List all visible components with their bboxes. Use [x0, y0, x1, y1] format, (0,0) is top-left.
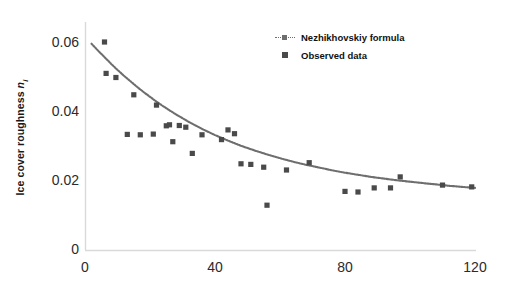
data-point	[190, 151, 195, 156]
data-point	[225, 127, 230, 132]
data-point	[469, 184, 474, 189]
data-point	[131, 92, 136, 97]
legend: Nezhikhovskiy formula Observed data	[272, 28, 404, 64]
data-point	[284, 167, 289, 172]
data-point	[398, 174, 403, 179]
data-point	[372, 185, 377, 190]
data-point	[104, 71, 109, 76]
square-marker-icon	[272, 52, 298, 58]
data-point	[440, 183, 445, 188]
legend-label: Nezhikhovskiy formula	[301, 32, 404, 43]
data-point	[177, 123, 182, 128]
data-point	[138, 132, 143, 137]
data-point	[183, 125, 188, 130]
data-point	[170, 139, 175, 144]
data-point	[125, 132, 130, 137]
data-point	[113, 75, 118, 80]
nezhikhovskiy-formula-curve	[92, 44, 476, 188]
data-point	[264, 203, 269, 208]
data-point	[199, 132, 204, 137]
legend-item-formula: Nezhikhovskiy formula	[272, 28, 404, 46]
data-point	[355, 189, 360, 194]
line-marker-icon	[272, 37, 298, 38]
legend-item-observed: Observed data	[272, 46, 404, 64]
data-point	[307, 160, 312, 165]
plot-canvas	[0, 0, 508, 308]
data-point	[219, 137, 224, 142]
data-point	[151, 132, 156, 137]
data-point	[102, 39, 107, 44]
data-point	[388, 185, 393, 190]
data-point	[248, 162, 253, 167]
data-point	[238, 161, 243, 166]
data-point	[232, 131, 237, 136]
data-point	[261, 165, 266, 170]
data-point	[154, 103, 159, 108]
legend-label: Observed data	[301, 50, 367, 61]
data-point	[342, 189, 347, 194]
chart-figure: Ice cover roughness ni 0.06 0.04 0.02 0 …	[0, 0, 508, 308]
data-point	[167, 122, 172, 127]
